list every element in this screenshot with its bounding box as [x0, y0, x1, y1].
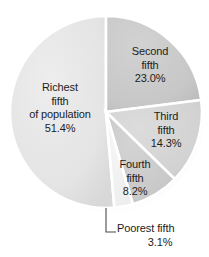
slice-label-richest-line1: Richest	[8, 81, 112, 95]
slice-label-second-percent: 23.0%	[116, 72, 184, 86]
slice-label-second-fifth: Second fifth 23.0%	[116, 45, 184, 86]
slice-label-fourth-line1: Fourth	[106, 158, 164, 172]
slice-label-third-line1: Third	[136, 110, 196, 124]
slice-label-third-fifth: Third fifth 14.3%	[136, 110, 196, 151]
pie-chart: Richest fifth of population 51.4% Second…	[0, 0, 209, 257]
slice-label-richest-line3: of population	[8, 108, 112, 122]
slice-label-fourth-percent: 8.2%	[106, 185, 164, 199]
slice-label-poorest-fifth: Poorest fifth 3.1%	[117, 222, 203, 249]
slice-label-richest-percent: 51.4%	[8, 122, 112, 136]
slice-label-richest-line2: fifth	[8, 95, 112, 109]
slice-label-poorest-percent: 3.1%	[117, 236, 203, 250]
slice-label-third-line2: fifth	[136, 124, 196, 138]
slice-label-third-percent: 14.3%	[136, 137, 196, 151]
slice-label-fourth-line2: fifth	[106, 172, 164, 186]
slice-label-second-line1: Second	[116, 45, 184, 59]
slice-label-richest-fifth: Richest fifth of population 51.4%	[8, 81, 112, 135]
slice-label-poorest-line1: Poorest fifth	[117, 222, 203, 236]
slice-label-second-line2: fifth	[116, 59, 184, 73]
slice-label-fourth-fifth: Fourth fifth 8.2%	[106, 158, 164, 199]
